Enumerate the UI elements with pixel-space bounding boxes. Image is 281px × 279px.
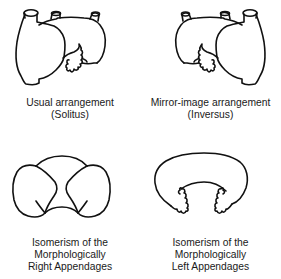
right-isomerism-illustration — [0, 140, 140, 240]
caption-left-isomerism: Isomerism of the Morphologically Left Ap… — [140, 237, 281, 273]
caption-right-isomerism-line1: Isomerism of the — [0, 237, 140, 249]
caption-solitus: Usual arrangement (Solitus) — [0, 97, 140, 121]
caption-right-isomerism: Isomerism of the Morphologically Right A… — [0, 237, 140, 273]
caption-solitus-line2: (Solitus) — [0, 109, 140, 121]
panel-right-isomerism: Isomerism of the Morphologically Right A… — [0, 140, 140, 279]
caption-right-isomerism-line3: Right Appendages — [0, 261, 140, 273]
heart-solitus-illustration — [0, 0, 140, 100]
caption-left-isomerism-line2: Morphologically — [140, 249, 281, 261]
heart-inversus-illustration — [140, 0, 281, 100]
caption-inversus: Mirror-image arrangement (Inversus) — [140, 97, 281, 121]
caption-right-isomerism-line2: Morphologically — [0, 249, 140, 261]
panel-inversus: Mirror-image arrangement (Inversus) — [140, 0, 281, 140]
left-isomerism-illustration — [140, 140, 281, 240]
caption-inversus-line2: (Inversus) — [140, 109, 281, 121]
caption-solitus-line1: Usual arrangement — [0, 97, 140, 109]
caption-left-isomerism-line1: Isomerism of the — [140, 237, 281, 249]
panel-solitus: Usual arrangement (Solitus) — [0, 0, 140, 140]
caption-inversus-line1: Mirror-image arrangement — [140, 97, 281, 109]
caption-left-isomerism-line3: Left Appendages — [140, 261, 281, 273]
panel-left-isomerism: Isomerism of the Morphologically Left Ap… — [140, 140, 281, 279]
